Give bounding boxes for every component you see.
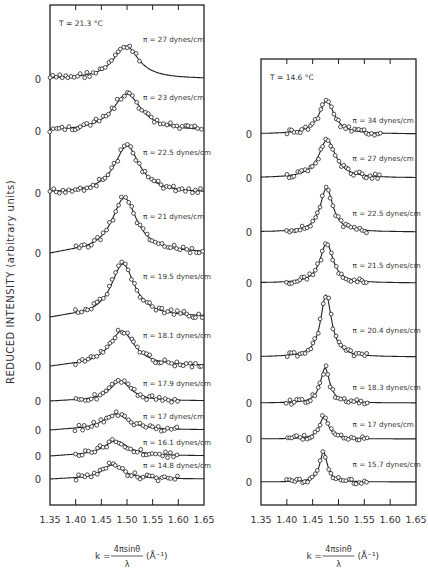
data-point xyxy=(311,341,315,345)
data-point xyxy=(318,205,322,209)
data-point xyxy=(188,251,192,255)
data-point xyxy=(159,183,163,187)
series-trace: 0π = 15.7 dynes/cm xyxy=(246,450,421,488)
data-point xyxy=(104,466,108,470)
data-point xyxy=(334,265,338,269)
data-point xyxy=(141,475,145,479)
data-point xyxy=(148,301,152,305)
data-point xyxy=(90,425,94,429)
data-point xyxy=(151,425,155,429)
data-point xyxy=(127,201,131,205)
data-point xyxy=(316,428,320,432)
data-point xyxy=(315,469,319,473)
data-point xyxy=(160,306,164,310)
data-point xyxy=(163,358,167,362)
data-point xyxy=(135,100,139,104)
data-point xyxy=(362,128,366,132)
pressure-label: π = 15.7 dynes/cm xyxy=(353,460,421,469)
data-point xyxy=(121,467,125,471)
series-trace: 0π = 14.8 dynes/cm xyxy=(35,461,211,485)
data-point xyxy=(163,475,167,479)
data-point xyxy=(110,166,114,170)
data-point xyxy=(292,174,296,178)
data-point xyxy=(129,145,133,149)
data-point xyxy=(347,125,351,129)
data-point xyxy=(157,395,161,399)
data-point xyxy=(123,379,127,383)
data-point xyxy=(105,228,109,232)
x-tick-label: 1.60 xyxy=(168,514,189,525)
data-point xyxy=(318,423,322,427)
data-point xyxy=(306,169,310,173)
data-point xyxy=(83,76,87,80)
svg-text:4πsinθ: 4πsinθ xyxy=(114,545,140,554)
data-point xyxy=(106,173,110,177)
data-point xyxy=(85,473,89,477)
data-point xyxy=(48,130,52,134)
data-point xyxy=(116,159,120,163)
zero-label: 0 xyxy=(246,227,252,238)
pressure-label: π = 21 dynes/cm xyxy=(143,212,204,221)
data-point xyxy=(119,195,123,199)
data-point xyxy=(320,103,324,107)
data-point xyxy=(169,246,173,250)
x-axis-label: k =4πsinθλ(Å⁻¹) xyxy=(95,545,168,569)
x-tick-label: 1.50 xyxy=(116,514,137,525)
data-point xyxy=(92,420,96,424)
data-point xyxy=(196,191,200,195)
pressure-label: π = 19.5 dynes/cm xyxy=(143,272,211,281)
data-point xyxy=(112,107,116,111)
data-point xyxy=(97,177,101,181)
panel-2: 1.351.401.451.501.551.601.65T = 14.6 °C0… xyxy=(246,59,427,569)
data-point xyxy=(309,224,313,228)
data-point xyxy=(80,398,84,402)
data-point xyxy=(349,349,353,353)
data-point xyxy=(310,165,314,169)
data-point xyxy=(89,397,93,401)
data-point xyxy=(310,435,314,439)
data-point xyxy=(138,295,142,299)
data-point xyxy=(135,450,139,454)
data-point xyxy=(86,426,90,430)
x-tick-label: 1.65 xyxy=(405,514,426,525)
data-point xyxy=(117,264,121,268)
data-point xyxy=(316,386,320,390)
data-point xyxy=(339,219,343,223)
data-point xyxy=(172,313,176,317)
zero-label: 0 xyxy=(35,188,41,199)
data-point xyxy=(180,124,184,128)
data-point xyxy=(185,248,189,252)
x-tick-label: 1.55 xyxy=(354,514,375,525)
data-point xyxy=(128,44,132,48)
data-point xyxy=(156,479,160,483)
data-point xyxy=(194,316,198,320)
pressure-label: π = 27 dynes/cm xyxy=(143,35,204,44)
data-point xyxy=(178,248,182,252)
data-point xyxy=(130,278,134,282)
temperature-label: T = 21.3 °C xyxy=(58,19,103,28)
data-point xyxy=(95,423,99,427)
x-axis-label: k =4πsinθλ(Å⁻¹) xyxy=(307,545,380,569)
zero-label: 0 xyxy=(35,451,41,462)
data-point xyxy=(318,317,322,321)
pressure-label: π = 20.4 dynes/cm xyxy=(353,326,421,335)
data-point xyxy=(199,187,203,191)
data-point xyxy=(365,480,369,484)
data-point xyxy=(105,292,109,296)
data-point xyxy=(141,395,145,399)
zero-label: 0 xyxy=(35,425,41,436)
data-point xyxy=(321,145,325,149)
data-point xyxy=(124,262,128,266)
data-point xyxy=(327,100,331,104)
data-point xyxy=(196,127,200,131)
data-point xyxy=(331,204,335,208)
data-point xyxy=(314,161,318,165)
data-point xyxy=(95,472,99,476)
data-point xyxy=(113,336,117,340)
data-point xyxy=(110,278,114,282)
data-point xyxy=(326,139,330,143)
data-point xyxy=(149,115,153,119)
data-point xyxy=(180,187,184,191)
data-point xyxy=(101,351,105,355)
data-point xyxy=(131,94,135,98)
